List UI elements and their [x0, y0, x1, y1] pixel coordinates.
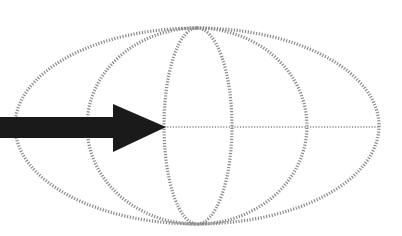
meridian-center-left [164, 28, 197, 224]
meridian-center-right [197, 28, 232, 224]
arrow-icon [0, 104, 166, 152]
meridian-right-inner [197, 28, 307, 224]
map-projection-diagram [0, 0, 402, 236]
